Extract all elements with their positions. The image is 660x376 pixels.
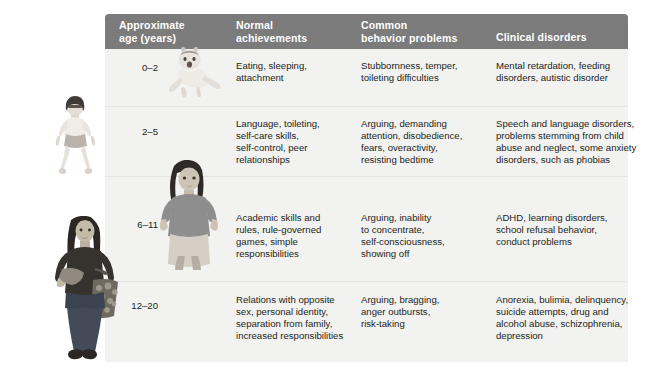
column-header-behavior: Common behavior problems [361, 19, 496, 44]
table-row: Speech and language disorders, problems … [496, 118, 644, 166]
table-row: Language, toileting, self-care skills, s… [236, 118, 361, 166]
table-row: Arguing, demanding attention, disobedien… [361, 118, 496, 166]
infant-photo [168, 46, 224, 98]
schoolchild-photo [152, 160, 226, 270]
table-row: ADHD, learning disorders, school refusal… [496, 212, 644, 248]
table-row: Relations with opposite sex, personal id… [236, 294, 361, 342]
table-row: Anorexia, bulimia, delinquency, suicide … [496, 294, 644, 342]
column-header-clinical: Clinical disorders [496, 31, 626, 44]
table-row: Academic skills and rules, rule-governed… [236, 212, 361, 260]
table-row: Arguing, bragging, anger outbursts, risk… [361, 294, 496, 330]
table-row: Stubbornness, temper, toileting difficul… [361, 60, 496, 84]
column-header-age: Approximate age (years) [119, 19, 234, 44]
table-header-bar: Approximate age (years) Normal achieveme… [105, 14, 628, 49]
table-row: 0–2 [104, 62, 158, 74]
figure-root: Approximate age (years) Normal achieveme… [0, 0, 660, 376]
column-header-normal: Normal achievements [236, 19, 361, 44]
teenager-photo [38, 214, 130, 362]
table-row: Eating, sleeping, attachment [236, 60, 361, 84]
table-row: Arguing, inability to concentrate, self-… [361, 212, 496, 260]
preschooler-photo [47, 96, 105, 182]
table-row: 2–5 [104, 126, 158, 138]
table-row: Mental retardation, feeding disorders, a… [496, 60, 644, 84]
